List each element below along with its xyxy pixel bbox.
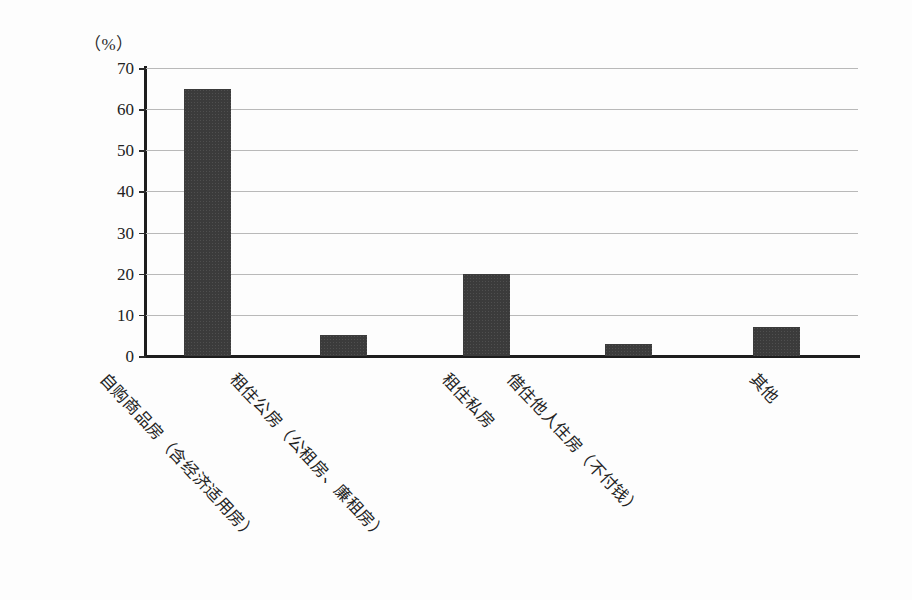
plot-area — [146, 68, 858, 356]
gridline — [146, 109, 858, 110]
bar — [605, 344, 652, 356]
y-axis-tick — [139, 109, 146, 111]
x-axis-category-label: 其他 — [746, 370, 782, 407]
x-axis-category-label: 租住公房（公租房、廉租房） — [225, 370, 389, 544]
gridline — [146, 191, 858, 192]
y-axis-tick — [139, 68, 146, 70]
x-axis-category-label: 借住他人住房（不付钱） — [503, 370, 644, 519]
y-axis-tick — [139, 191, 146, 193]
bar — [463, 274, 510, 356]
bar — [320, 335, 367, 356]
y-axis-tick-label: 40 — [76, 183, 134, 200]
y-axis-tick-label: 50 — [76, 142, 134, 159]
y-axis-unit-label: （%） — [84, 30, 134, 55]
y-axis-tick — [139, 274, 146, 276]
y-axis-tick-label: 20 — [76, 266, 134, 283]
bar — [184, 89, 231, 356]
y-axis-tick — [139, 233, 146, 235]
gridline — [146, 68, 858, 69]
bar — [753, 327, 800, 356]
y-axis-tick — [139, 315, 146, 317]
x-axis-category-label: 自购商品房（含经济适用房） — [96, 370, 260, 544]
y-axis-tick-label: 70 — [76, 60, 134, 77]
y-axis-tick-label: 60 — [76, 101, 134, 118]
x-axis-category-labels: 自购商品房（含经济适用房）租住公房（公租房、廉租房）租住私房借住他人住房（不付钱… — [0, 356, 912, 600]
y-axis-tick-label: 30 — [76, 225, 134, 242]
y-axis-tick-label: 10 — [76, 307, 134, 324]
bar-chart-figure: （%） 706050403020100 自购商品房（含经济适用房）租住公房（公租… — [0, 0, 912, 600]
gridline — [146, 150, 858, 151]
x-axis-category-label: 租住私房 — [438, 370, 498, 432]
y-axis-tick — [139, 150, 146, 152]
gridline — [146, 233, 858, 234]
